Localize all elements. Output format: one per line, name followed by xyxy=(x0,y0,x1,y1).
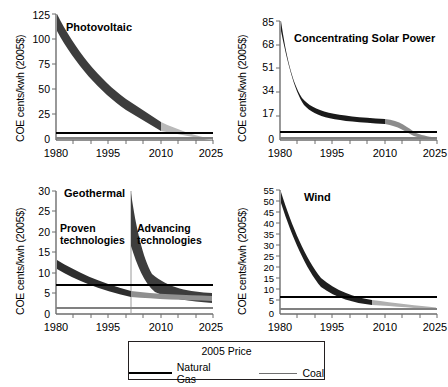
xtick-label: 1980 xyxy=(268,147,292,159)
annotation-proven-line2: technologies xyxy=(60,234,125,246)
plot-geothermal: 30 25 20 15 10 5 0 xyxy=(0,170,224,340)
chart-panel-wind: COE cents/kwh (2005$) 55 50 45 40 35 30 … xyxy=(224,170,448,340)
plot-concentrating-solar-power: 85 68 51 34 17 0 1980 19 xyxy=(224,0,448,170)
ytick-label: 10 xyxy=(263,284,274,295)
coal-legend-swatch xyxy=(259,373,298,374)
legend-box: 2005 Price Natural Gas Coal xyxy=(128,341,325,380)
annotation-proven-line1: Proven xyxy=(60,222,96,234)
data-band-historical xyxy=(281,192,372,305)
chart-title-geothermal: Geothermal xyxy=(64,187,125,199)
ytick-label: 25 xyxy=(38,108,50,120)
xtick-label: 2025 xyxy=(199,321,223,333)
ytick-label: 40 xyxy=(263,218,274,229)
ytick-label: 100 xyxy=(32,33,50,45)
ytick-label: 50 xyxy=(263,196,274,207)
ytick-label: 0 xyxy=(44,133,50,145)
y-axis-label-geothermal: COE cents/kwh (2005$) xyxy=(14,208,26,315)
ytick-label: 35 xyxy=(263,229,274,240)
xtick-label: 2010 xyxy=(149,321,173,333)
chart-panel-photovoltaic: COE cents/kwh (2005$) 125 100 75 50 25 0 xyxy=(0,0,224,170)
data-band-projected xyxy=(385,119,436,140)
data-band-advancing xyxy=(131,193,212,303)
xtick-label: 1995 xyxy=(320,321,344,333)
y-axis-label-csp: COE cents/kwh (2005$) xyxy=(236,35,248,142)
plot-photovoltaic: 125 100 75 50 25 0 xyxy=(0,0,224,170)
ytick-label: 34 xyxy=(262,84,274,96)
ytick-label: 75 xyxy=(38,58,50,70)
ytick-label: 30 xyxy=(38,185,50,197)
ytick-label: 17 xyxy=(262,107,274,119)
ytick-label: 20 xyxy=(38,226,50,238)
plot-wind: 55 50 45 40 35 30 25 20 15 10 5 0 xyxy=(224,170,448,340)
legend-title: 2005 Price xyxy=(129,345,324,357)
chart-panel-geothermal: COE cents/kwh (2005$) 30 25 20 15 10 5 0 xyxy=(0,170,224,340)
y-axis-label-wind: COE cents/kwh (2005$) xyxy=(236,208,248,315)
chart-title-photovoltaic: Photovoltaic xyxy=(66,21,132,33)
legend-label-natural-gas: Natural Gas xyxy=(177,361,231,385)
y-axis-label-photovoltaic: COE cents/kwh (2005$) xyxy=(14,35,26,142)
ytick-label: 5 xyxy=(44,287,50,299)
xtick-label: 1980 xyxy=(44,147,68,159)
ytick-label: 25 xyxy=(38,205,50,217)
xtick-label: 2025 xyxy=(199,147,223,159)
annotation-advancing-line2: technologies xyxy=(137,234,202,246)
xtick-label: 2025 xyxy=(423,147,447,159)
data-band-proven-historical xyxy=(57,260,131,297)
ytick-label: 0 xyxy=(44,308,50,320)
ytick-label: 68 xyxy=(262,38,274,50)
ytick-label: 30 xyxy=(263,240,274,251)
ytick-label: 5 xyxy=(269,295,274,306)
legend-label-coal: Coal xyxy=(302,367,324,379)
ytick-label: 0 xyxy=(268,133,274,145)
ytick-label: 10 xyxy=(38,267,50,279)
ytick-label: 15 xyxy=(38,246,50,258)
ytick-label: 0 xyxy=(269,308,274,319)
xtick-label: 2010 xyxy=(149,147,173,159)
xtick-label: 1980 xyxy=(44,321,68,333)
xtick-label: 2010 xyxy=(373,147,397,159)
chart-panel-concentrating-solar-power: COE cents/kwh (2005$) 85 68 51 34 17 0 xyxy=(224,0,448,170)
xtick-label: 1980 xyxy=(268,321,292,333)
ytick-label: 55 xyxy=(263,185,274,196)
xtick-label: 2025 xyxy=(423,321,447,333)
ytick-label: 51 xyxy=(262,61,274,73)
xtick-label: 1995 xyxy=(96,147,120,159)
chart-title-csp: Concentrating Solar Power xyxy=(294,32,436,44)
natural-gas-legend-swatch xyxy=(129,372,172,374)
legend-entries: Natural Gas Coal xyxy=(129,361,324,385)
ytick-label: 85 xyxy=(262,16,274,28)
chart-title-wind: Wind xyxy=(304,191,331,203)
xtick-label: 1995 xyxy=(96,321,120,333)
ytick-label: 50 xyxy=(38,83,50,95)
ytick-label: 15 xyxy=(263,273,274,284)
ytick-label: 125 xyxy=(32,9,50,21)
ytick-label: 45 xyxy=(263,207,274,218)
annotation-advancing-line1: Advancing xyxy=(137,222,191,234)
ytick-label: 25 xyxy=(263,251,274,262)
xtick-label: 1995 xyxy=(320,147,344,159)
xtick-label: 2010 xyxy=(373,321,397,333)
ytick-label: 20 xyxy=(263,262,274,273)
